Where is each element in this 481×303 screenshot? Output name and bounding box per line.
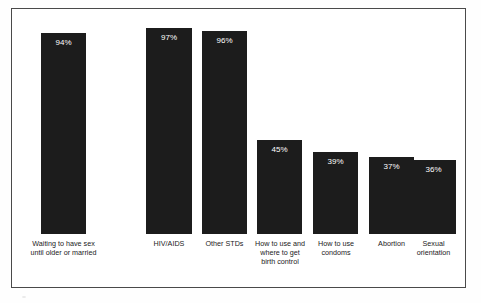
- label-line: orientation: [400, 248, 467, 257]
- label-line: Waiting to have sex: [16, 239, 111, 248]
- bar-abortion: 37%: [369, 157, 414, 234]
- bar-value-label: 94%: [41, 38, 86, 47]
- bar-value-label: 37%: [369, 162, 414, 171]
- bar-how-to-use-condoms: 39%: [313, 152, 358, 234]
- label-line: Sexual: [400, 239, 467, 248]
- bar-sexual-orientation: 36%: [411, 160, 456, 234]
- bar-category-label-waiting-to-have-sex: Waiting to have sex until older or marri…: [16, 239, 111, 257]
- bar-value-label: 97%: [146, 33, 192, 42]
- bar-value-label: 36%: [411, 165, 456, 174]
- bar-value-label: 39%: [313, 157, 358, 166]
- bar-value-label: 45%: [257, 145, 302, 154]
- bar-waiting-to-have-sex: 94%: [41, 33, 86, 234]
- chart-figure: 94% Waiting to have sex until older or m…: [0, 0, 481, 303]
- bar-other-stds: 96%: [202, 31, 247, 234]
- chart-plot-area: 94% Waiting to have sex until older or m…: [0, 0, 481, 303]
- bar-value-label: 96%: [202, 36, 247, 45]
- bar-birth-control: 45%: [257, 140, 302, 234]
- label-line: condoms: [303, 248, 369, 257]
- bar-category-label-sexual-orientation: Sexual orientation: [400, 239, 467, 257]
- label-line: birth control: [246, 257, 314, 266]
- label-line: until older or married: [16, 248, 111, 257]
- bar-hiv-aids: 97%: [146, 28, 192, 234]
